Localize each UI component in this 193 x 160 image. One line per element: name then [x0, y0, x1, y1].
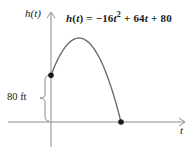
height-annotation-label: 80 ft — [7, 91, 27, 102]
x-axis-label: t — [180, 124, 183, 136]
equation-label: h(t) = −16t2 + 64t + 80 — [66, 12, 172, 24]
formula-part: + 80 — [148, 12, 172, 24]
plot-canvas — [0, 0, 193, 160]
height-brace-icon — [40, 75, 49, 121]
projectile-height-figure: h(t) h(t) = −16t2 + 64t + 80 80 ft t — [0, 0, 193, 160]
y-axis-label: h(t) — [25, 7, 41, 19]
formula-part: + 64 — [121, 12, 145, 24]
height-curve — [51, 38, 121, 122]
formula-part: ) = −16 — [79, 12, 113, 24]
marked-point — [118, 119, 124, 125]
marked-point — [48, 73, 54, 79]
